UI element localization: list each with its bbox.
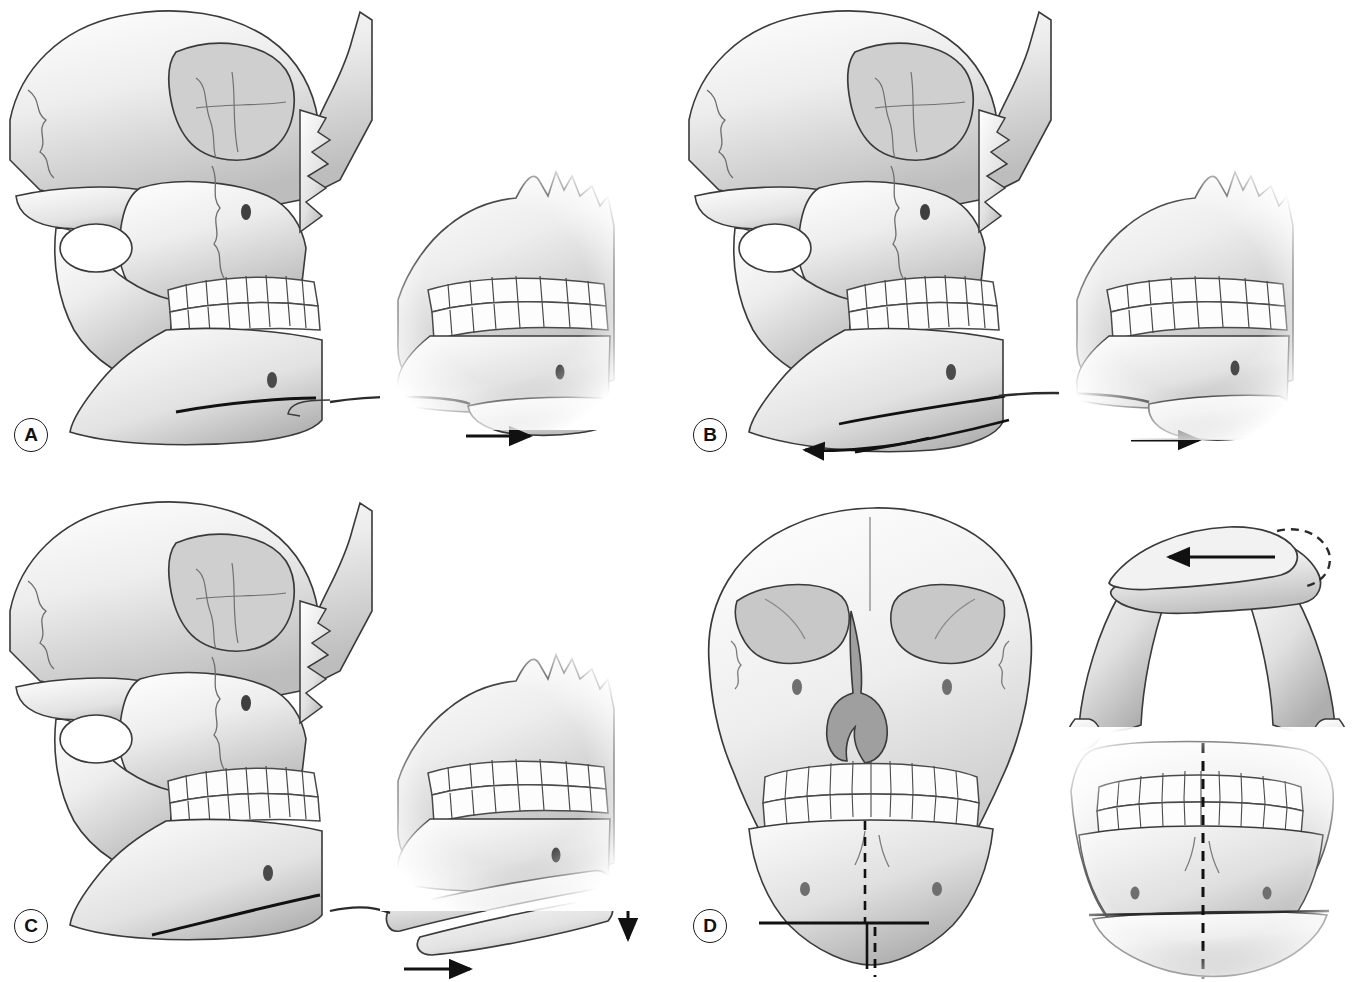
mental-foramen bbox=[946, 364, 956, 380]
panel-label-c: C bbox=[14, 909, 48, 943]
frontal-skull-view-d bbox=[709, 508, 1032, 977]
mandible-axial-inset-d bbox=[1066, 527, 1348, 750]
mandibular-symphysis bbox=[749, 820, 993, 965]
chin-inset-view-b bbox=[999, 160, 1311, 440]
infraorbital-foramen bbox=[241, 204, 251, 220]
panel-b: B bbox=[679, 0, 1357, 491]
infraorbital-foramen-left bbox=[792, 679, 802, 695]
panel-b-artwork bbox=[679, 0, 1357, 491]
infraorbital-foramen bbox=[920, 204, 930, 220]
lateral-skull-view-a bbox=[10, 11, 372, 445]
panel-d: D bbox=[679, 491, 1357, 982]
panel-label-b: B bbox=[693, 418, 727, 452]
chin-inset-view-c bbox=[330, 641, 632, 969]
genioplasty-figure: Genioplasty osteotomy variations bbox=[0, 0, 1357, 982]
mental-foramen-left bbox=[800, 882, 810, 896]
panel-label-d: D bbox=[693, 909, 727, 943]
lateral-skull-view-c bbox=[10, 502, 372, 940]
mandibular-notch bbox=[739, 224, 811, 272]
panel-label-a: A bbox=[14, 418, 48, 452]
mental-foramen bbox=[263, 865, 273, 881]
infraorbital-foramen bbox=[241, 695, 251, 711]
panel-c: C bbox=[0, 491, 678, 982]
orbit-right bbox=[891, 585, 1005, 664]
mental-foramen bbox=[267, 372, 277, 388]
inset-vignette bbox=[380, 160, 632, 430]
chin-inset-view-a bbox=[288, 160, 632, 436]
mandible-frontal-inset-d bbox=[1055, 727, 1351, 982]
lateral-skull-view-b bbox=[689, 11, 1051, 452]
infraorbital-foramen-right bbox=[942, 679, 952, 695]
mandibular-notch bbox=[60, 715, 132, 763]
panel-c-artwork bbox=[0, 491, 678, 982]
inset-vignette bbox=[380, 641, 632, 911]
panel-a-artwork bbox=[0, 0, 678, 491]
mandibular-notch bbox=[60, 224, 132, 272]
inset-vignette bbox=[1059, 160, 1311, 440]
inset-vignette bbox=[1055, 727, 1351, 982]
mental-foramen-right bbox=[932, 882, 942, 896]
orbit-left bbox=[735, 585, 849, 664]
panel-d-artwork bbox=[679, 491, 1357, 982]
panel-a: A bbox=[0, 0, 678, 491]
